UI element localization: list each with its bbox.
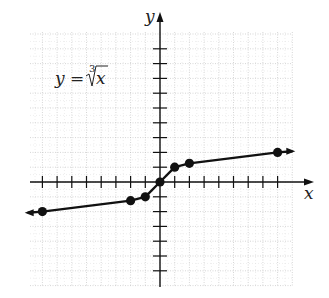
data-point xyxy=(155,177,164,186)
data-point xyxy=(273,148,282,157)
cube-root-graph: x y y = 3 x xyxy=(0,0,329,298)
equation-label: y = 3 x xyxy=(54,63,108,88)
data-point xyxy=(126,196,135,205)
axes xyxy=(30,12,314,287)
data-point xyxy=(38,207,47,216)
data-point xyxy=(185,159,194,168)
x-axis-label: x xyxy=(304,183,314,203)
y-axis-label: y xyxy=(144,6,155,26)
radicand: x xyxy=(96,68,106,88)
equation-lhs: y = xyxy=(54,68,84,88)
data-point xyxy=(141,192,150,201)
data-point xyxy=(170,163,179,172)
